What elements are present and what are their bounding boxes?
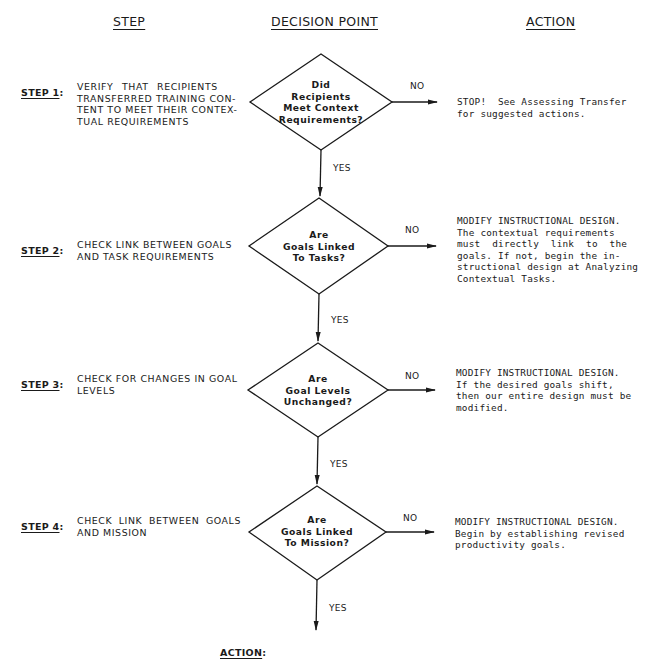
decision-1-line: Requirements?	[261, 114, 381, 126]
decision-1-line: Recipients	[261, 91, 381, 103]
no-label-2: NO	[405, 225, 419, 235]
decision-2-line: Are	[259, 229, 379, 241]
step-3-label-group: STEP 3:	[21, 373, 63, 392]
step-1-line: TRANSFERRED TRAINING CON-	[77, 93, 243, 105]
step-4-description: CHECK LINK BETWEEN GOALS AND MISSION	[77, 515, 247, 538]
action-3-line: If the desired goals shift,	[456, 379, 666, 391]
decision-4-line: To Mission?	[257, 537, 377, 549]
step-4-colon: :	[60, 521, 64, 532]
step-1-line: TUAL REQUIREMENTS	[77, 116, 243, 128]
step-2-line: CHECK LINK BETWEEN GOALS	[77, 239, 247, 251]
action-2-line: goals. If not, begin the in-	[457, 250, 666, 262]
action-4-line: productivity goals.	[455, 539, 665, 551]
decision-1-line: Did	[261, 79, 381, 91]
final-action-label: ACTION	[220, 647, 262, 658]
action-4-line: Begin by establishing revised	[455, 528, 665, 540]
yes-label-2: YES	[331, 315, 349, 325]
step-2-colon: :	[60, 245, 64, 256]
step-3-label: STEP 3	[21, 379, 60, 390]
decision-4-line: Are	[257, 514, 377, 526]
action-3-line: modified.	[456, 402, 666, 414]
step-4-label-group: STEP 4:	[21, 515, 63, 534]
decision-3-line: Unchanged?	[258, 396, 378, 408]
action-2-line: structional design at Analyzing	[457, 261, 666, 273]
step-1-label-group: STEP 1:	[21, 81, 63, 100]
decision-1-text: Did Recipients Meet Context Requirements…	[261, 79, 381, 125]
decision-2-line: To Tasks?	[259, 252, 379, 264]
decision-3-line: Goal Levels	[258, 385, 378, 397]
decision-1-line: Meet Context	[261, 102, 381, 114]
step-3-description: CHECK FOR CHANGES IN GOAL LEVELS	[77, 373, 247, 396]
action-3-line: then our entire design must be	[456, 390, 666, 402]
decision-2-line: Goals Linked	[259, 241, 379, 253]
step-1-label: STEP 1	[21, 87, 60, 98]
action-3-text: MODIFY INSTRUCTIONAL DESIGN. If the desi…	[456, 367, 666, 413]
decision-3-text: Are Goal Levels Unchanged?	[258, 373, 378, 408]
step-3-line: LEVELS	[77, 385, 247, 397]
yes-label-1: YES	[333, 163, 351, 173]
action-1-line: for suggested actions.	[457, 108, 666, 120]
action-1-text: STOP! See Assessing Transfer for suggest…	[457, 96, 666, 119]
action-2-line: must directly link to the	[457, 238, 666, 250]
action-4-line: MODIFY INSTRUCTIONAL DESIGN.	[455, 516, 665, 528]
final-action-group: ACTION:	[220, 641, 266, 660]
decision-4-line: Goals Linked	[257, 526, 377, 538]
step-4-line: AND MISSION	[77, 527, 247, 539]
no-label-3: NO	[405, 371, 419, 381]
no-label-4: NO	[403, 513, 417, 523]
decision-4-text: Are Goals Linked To Mission?	[257, 514, 377, 549]
action-4-text: MODIFY INSTRUCTIONAL DESIGN. Begin by es…	[455, 516, 665, 551]
step-1-line: TENT TO MEET THEIR CONTEX-	[77, 104, 243, 116]
action-2-text: MODIFY INSTRUCTIONAL DESIGN. The context…	[457, 215, 666, 285]
action-3-line: MODIFY INSTRUCTIONAL DESIGN.	[456, 367, 666, 379]
step-1-description: VERIFY THAT RECIPIENTS TRANSFERRED TRAIN…	[77, 81, 243, 127]
no-label-1: NO	[410, 81, 424, 91]
step-2-label-group: STEP 2:	[21, 239, 63, 258]
yes-label-3: YES	[330, 459, 348, 469]
final-action-colon: :	[262, 647, 266, 658]
action-2-line: The contextual requirements	[457, 227, 666, 239]
action-1-line: STOP! See Assessing Transfer	[457, 96, 666, 108]
step-4-line: CHECK LINK BETWEEN GOALS	[77, 515, 247, 527]
action-2-line: MODIFY INSTRUCTIONAL DESIGN.	[457, 215, 666, 227]
step-2-line: AND TASK REQUIREMENTS	[77, 251, 247, 263]
yes-arrow-2	[318, 294, 319, 341]
step-2-description: CHECK LINK BETWEEN GOALS AND TASK REQUIR…	[77, 239, 247, 262]
step-1-colon: :	[60, 87, 64, 98]
yes-arrow-3	[317, 437, 318, 484]
decision-2-text: Are Goals Linked To Tasks?	[259, 229, 379, 264]
step-3-line: CHECK FOR CHANGES IN GOAL	[77, 373, 247, 385]
decision-3-line: Are	[258, 373, 378, 385]
step-3-colon: :	[60, 379, 64, 390]
action-2-line: Contextual Tasks.	[457, 273, 666, 285]
step-2-label: STEP 2	[21, 245, 60, 256]
yes-label-4: YES	[329, 603, 347, 613]
yes-arrow-4	[316, 580, 317, 630]
step-4-label: STEP 4	[21, 521, 60, 532]
step-1-line: VERIFY THAT RECIPIENTS	[77, 81, 243, 93]
yes-arrow-1	[320, 150, 321, 196]
